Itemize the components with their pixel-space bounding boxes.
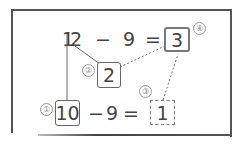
step-marker-1: ① — [40, 103, 53, 116]
bottom-minus: − — [88, 104, 104, 123]
bottom-result-box: 1 — [150, 100, 175, 125]
step-marker-2: ② — [82, 64, 95, 77]
sum-connector-b — [163, 54, 178, 100]
top-minus: − — [95, 30, 111, 49]
step-marker-4: ④ — [193, 22, 206, 35]
bottom-equals: = — [123, 104, 139, 123]
connector-lines — [0, 0, 243, 146]
ones-part-box: 2 — [97, 62, 121, 88]
bottom-subtrahend: 9 — [106, 104, 118, 123]
step-marker-3: ③ — [139, 85, 152, 98]
minuend-ones: 2 — [70, 30, 82, 49]
result-box: 3 — [164, 27, 190, 52]
top-equals: = — [145, 30, 161, 49]
top-subtrahend: 9 — [123, 30, 135, 49]
ten-box: 10 — [55, 100, 80, 126]
